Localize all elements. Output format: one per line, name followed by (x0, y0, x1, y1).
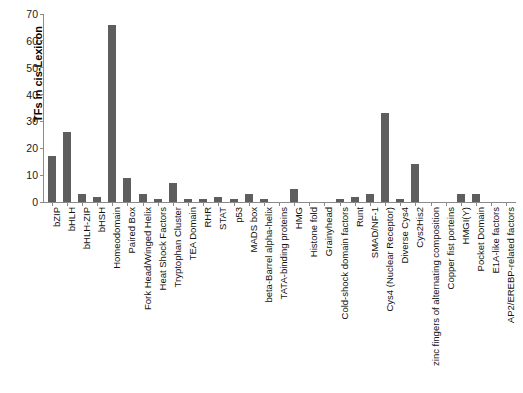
x-axis-label-slot: RHR (196, 207, 211, 208)
bar-slot (271, 14, 286, 202)
bar-slot (423, 14, 438, 202)
x-axis-label-slot: beta-Barrel alpha-helix (256, 207, 271, 208)
x-axis-tick-mark (476, 202, 477, 206)
x-axis-label-slot: TEA Domain (180, 207, 195, 208)
x-axis-label-slot: Histone fold (302, 207, 317, 208)
x-axis-label-slot: Heat Shock Factors (150, 207, 165, 208)
x-axis-label-slot: bHSH (89, 207, 104, 208)
x-axis-tick-label: Cys4 (Nuclear Receptor) (385, 207, 395, 312)
x-axis-tick-label: Paired Box (127, 207, 137, 253)
bar-slot (105, 14, 120, 202)
x-axis-tick-mark (506, 202, 507, 206)
bar[interactable] (457, 194, 465, 202)
bar-slot (393, 14, 408, 202)
bar-slot (438, 14, 453, 202)
x-axis-tick-label: Fork Head/Winged Helix (143, 207, 153, 310)
x-axis-label-slot: bZIP (44, 207, 59, 208)
x-axis-tick-label: Runt (355, 207, 365, 227)
x-axis-tick-mark (385, 202, 386, 206)
bar-slot (241, 14, 256, 202)
x-axis-tick-label: Cys2His2 (415, 207, 425, 248)
x-axis-label-slot: Copper fist porteins (438, 207, 453, 208)
x-axis-tick-mark (249, 202, 250, 206)
x-axis-label-slot: Cys4 (Nuclear Receptor) (378, 207, 393, 208)
bar[interactable] (123, 178, 131, 202)
x-axis-tick-label: Cold-shock domain factors (340, 207, 350, 319)
x-axis-tick-mark (203, 202, 204, 206)
x-axis-tick-mark (67, 202, 68, 206)
x-axis-tick-mark (218, 202, 219, 206)
bar[interactable] (245, 194, 253, 202)
x-axis-tick-label: bHLH (67, 207, 77, 231)
x-axis-label-slot: STAT (211, 207, 226, 208)
x-axis-tick-mark (355, 202, 356, 206)
y-axis-tick-label: 10 (26, 168, 38, 182)
x-axis-tick-label: Pocket Domain (476, 207, 486, 271)
y-axis-tick-label: 50 (26, 61, 38, 75)
x-axis-tick-label: Grainyhead (324, 207, 334, 256)
bar[interactable] (169, 183, 177, 202)
x-axis-tick-mark (324, 202, 325, 206)
x-axis-tick-label: Diverse Cys4 (400, 207, 410, 264)
x-axis-label-slot: Pocket Domain (469, 207, 484, 208)
x-axis-label-slot: zinc fingers of alternating composition (423, 207, 438, 208)
bar-slot (59, 14, 74, 202)
bar[interactable] (78, 194, 86, 202)
bar[interactable] (366, 194, 374, 202)
x-axis-label-slot: Cys2His2 (408, 207, 423, 208)
x-axis-tick-label: Copper fist porteins (446, 207, 456, 289)
bar-slot (44, 14, 59, 202)
x-axis-tick-label: RHR (203, 207, 213, 228)
bar-slot (165, 14, 180, 202)
x-axis-tick-mark (234, 202, 235, 206)
x-axis-tick-mark (431, 202, 432, 206)
bar[interactable] (108, 25, 116, 202)
bar[interactable] (411, 164, 419, 202)
bar-slot (256, 14, 271, 202)
bar-slot (317, 14, 332, 202)
x-axis-tick-mark (294, 202, 295, 206)
x-axis-tick-mark (82, 202, 83, 206)
bar[interactable] (381, 113, 389, 202)
x-axis-label-slot: MADS box (241, 207, 256, 208)
x-axis-tick-label: Homeodomain (112, 207, 122, 269)
x-axis-label-slot: bHLH (59, 207, 74, 208)
bar-slot (120, 14, 135, 202)
x-axis-tick-label: beta-Barrel alpha-helix (264, 207, 274, 303)
bar[interactable] (139, 194, 147, 202)
x-axis-tick-mark (52, 202, 53, 206)
x-axis-label-slot: Homeodomain (105, 207, 120, 208)
x-axis-tick-label: Heat Shock Factors (158, 207, 168, 290)
bar-slot (408, 14, 423, 202)
plot-area: 010203040506070 (44, 14, 514, 202)
x-axis-label-slot: Fork Head/Winged Helix (135, 207, 150, 208)
y-axis-tick-label: 60 (26, 34, 38, 48)
x-axis-tick-mark (173, 202, 174, 206)
bar[interactable] (472, 194, 480, 202)
x-axis-tick-label: TATA-binding proteins (279, 207, 289, 299)
x-axis-label-slot: Diverse Cys4 (393, 207, 408, 208)
x-axis-label-slot: E1A-like factors (484, 207, 499, 208)
bar-slot (211, 14, 226, 202)
x-axis-tick-label: bZIP (52, 207, 62, 227)
x-axis-tick-mark (415, 202, 416, 206)
x-axis-tick-label: bHLH-ZIP (82, 207, 92, 249)
bar-slot (226, 14, 241, 202)
x-axis-tick-label: MADS box (249, 207, 259, 252)
bar-slot (484, 14, 499, 202)
x-axis-tick-mark (264, 202, 265, 206)
bar-slot (180, 14, 195, 202)
bar[interactable] (63, 132, 71, 202)
x-axis-tick-mark (340, 202, 341, 206)
x-axis-tick-mark (461, 202, 462, 206)
bar[interactable] (290, 189, 298, 202)
bar-slot (362, 14, 377, 202)
bar-slot (150, 14, 165, 202)
x-axis-tick-label: HMGI(Y) (461, 207, 471, 244)
x-axis-label-slot: Paired Box (120, 207, 135, 208)
y-axis-tick-label: 20 (26, 141, 38, 155)
x-axis-tick-mark (279, 202, 280, 206)
x-axis-tick-mark (400, 202, 401, 206)
x-axis-tick-mark (143, 202, 144, 206)
bar[interactable] (48, 156, 56, 202)
